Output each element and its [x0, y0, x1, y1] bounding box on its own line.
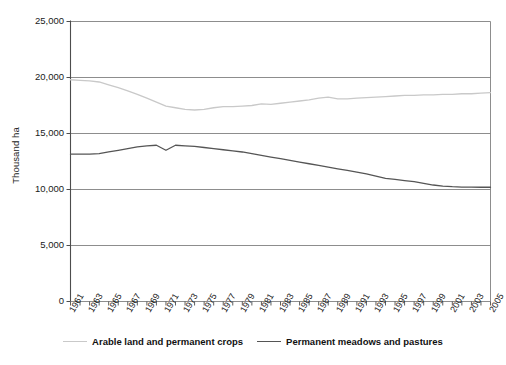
y-axis-tick-label: 15,000 — [8, 127, 64, 138]
legend-item: Permanent meadows and pastures — [257, 336, 443, 347]
line-chart: Thousand ha 05,00010,00015,00020,00025,0… — [0, 0, 506, 365]
y-axis-tick-label: 0 — [8, 295, 64, 306]
chart-legend: Arable land and permanent cropsPermanent… — [0, 336, 506, 347]
y-axis-tick-label: 10,000 — [8, 183, 64, 194]
y-axis-tick-label: 5,000 — [8, 239, 64, 250]
legend-item: Arable land and permanent crops — [63, 336, 243, 347]
y-axis-tick-label: 20,000 — [8, 71, 64, 82]
series-line-1 — [71, 80, 491, 110]
legend-color-swatch — [63, 341, 87, 342]
series-line-2 — [71, 145, 491, 187]
legend-color-swatch — [257, 341, 281, 342]
legend-item-label: Permanent meadows and pastures — [286, 336, 443, 347]
legend-item-label: Arable land and permanent crops — [92, 336, 243, 347]
y-axis-tick-label: 25,000 — [8, 15, 64, 26]
